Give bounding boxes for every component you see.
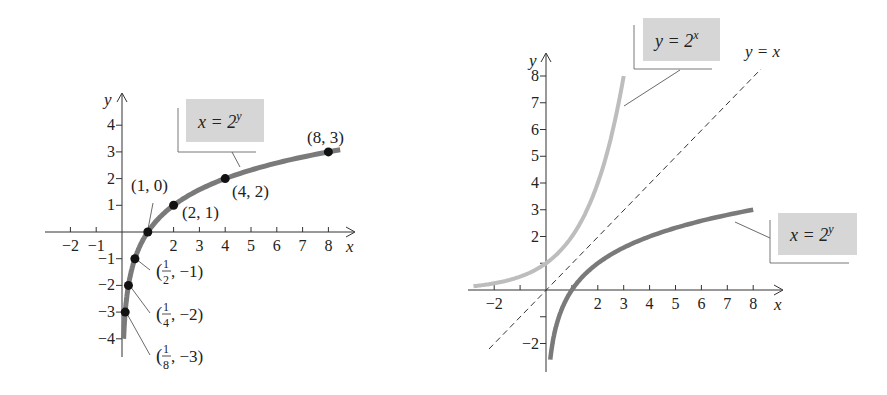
x-tick-label: 5: [247, 237, 255, 254]
svg-text:x = 2y: x = 2y: [789, 222, 834, 245]
svg-text:1: 1: [163, 342, 169, 356]
x-tick-label: 2: [594, 295, 602, 312]
log-curve: [550, 210, 753, 360]
right-y-axis-label: y: [527, 51, 537, 70]
label-point-8-3: (8, 3): [307, 128, 344, 147]
x-tick-label: 4: [646, 295, 654, 312]
svg-text:y = 2x: y = 2x: [653, 28, 699, 51]
y-tick-label: −4: [98, 330, 115, 347]
left-graph: −2−12345678 4321−1−2−3−4 x y (1, 0) (2, …: [45, 90, 355, 372]
x-tick-label: 6: [697, 295, 705, 312]
y-tick-label: −1: [98, 250, 115, 267]
data-point: [130, 254, 139, 263]
svg-text:4: 4: [163, 316, 169, 330]
x-tick-label: −2: [486, 295, 503, 312]
data-point: [143, 228, 152, 237]
label-point-quarter-neg2: ( 1 4 , −2): [156, 300, 203, 330]
svg-text:(: (: [156, 260, 162, 282]
exp-curve: [474, 76, 624, 286]
svg-text:x = 2y: x = 2y: [197, 109, 242, 132]
data-point: [221, 174, 230, 183]
right-graph: −22345678 8765432−2 x y y = x y = 2x x =…: [468, 18, 857, 372]
y-tick-label: 1: [107, 196, 115, 213]
svg-text:2: 2: [163, 273, 169, 287]
x-tick-label: 7: [723, 295, 731, 312]
exp-equation-box: y = 2x: [634, 18, 720, 69]
left-x-axis-label: x: [345, 237, 354, 256]
y-tick-label: −3: [98, 303, 115, 320]
y-tick-label: 5: [531, 147, 539, 164]
label-point-4-2: (4, 2): [232, 182, 269, 201]
svg-text:(: (: [156, 345, 162, 367]
y-tick-label: −2: [98, 276, 115, 293]
y-tick-label: 4: [107, 116, 115, 133]
y-tick-label: 7: [531, 94, 539, 111]
x-tick-label: 3: [195, 237, 203, 254]
y-tick-label: 2: [107, 170, 115, 187]
label-point-2-1: (2, 1): [182, 203, 219, 222]
data-point: [324, 147, 333, 156]
y-tick-label: 3: [531, 201, 539, 218]
svg-text:8: 8: [163, 358, 169, 372]
label-point-eighth-neg3: ( 1 8 , −3): [156, 342, 203, 372]
y-tick-label: 3: [107, 143, 115, 160]
svg-text:1: 1: [163, 257, 169, 271]
figure: −2−12345678 4321−1−2−3−4 x y (1, 0) (2, …: [0, 0, 887, 395]
x-tick-label: 7: [299, 237, 307, 254]
label-point-1-0: (1, 0): [131, 176, 168, 195]
x-tick-label: 2: [170, 237, 178, 254]
x-tick-label: −2: [62, 237, 79, 254]
right-y-ticks: 8765432−2: [522, 67, 546, 352]
left-y-axis-label: y: [102, 90, 112, 109]
x-tick-label: 6: [273, 237, 281, 254]
svg-text:(: (: [156, 303, 162, 325]
svg-text:, −2): , −2): [171, 305, 203, 324]
data-point: [169, 201, 178, 210]
right-x-axis-label: x: [773, 295, 782, 314]
right-x-ticks: −22345678: [486, 285, 758, 312]
svg-text:, −3): , −3): [171, 347, 203, 366]
y-tick-label: 4: [531, 174, 539, 191]
x-tick-label: 8: [749, 295, 757, 312]
data-point: [121, 308, 130, 317]
y-tick-label: 2: [531, 228, 539, 245]
x-tick-label: 3: [620, 295, 628, 312]
svg-text:, −1): , −1): [171, 262, 203, 281]
data-point: [124, 281, 133, 290]
log-equation-box: x = 2y: [770, 213, 857, 263]
x-tick-label: 5: [672, 295, 680, 312]
identity-label: y = x: [743, 42, 781, 61]
y-tick-label: −2: [522, 335, 539, 352]
svg-text:1: 1: [163, 300, 169, 314]
label-point-half-neg1: ( 1 2 , −1): [156, 257, 203, 287]
y-tick-label: 6: [531, 121, 539, 138]
x-tick-label: 8: [324, 237, 332, 254]
x-tick-label: 4: [221, 237, 229, 254]
left-equation-box: x = 2y: [178, 99, 264, 152]
